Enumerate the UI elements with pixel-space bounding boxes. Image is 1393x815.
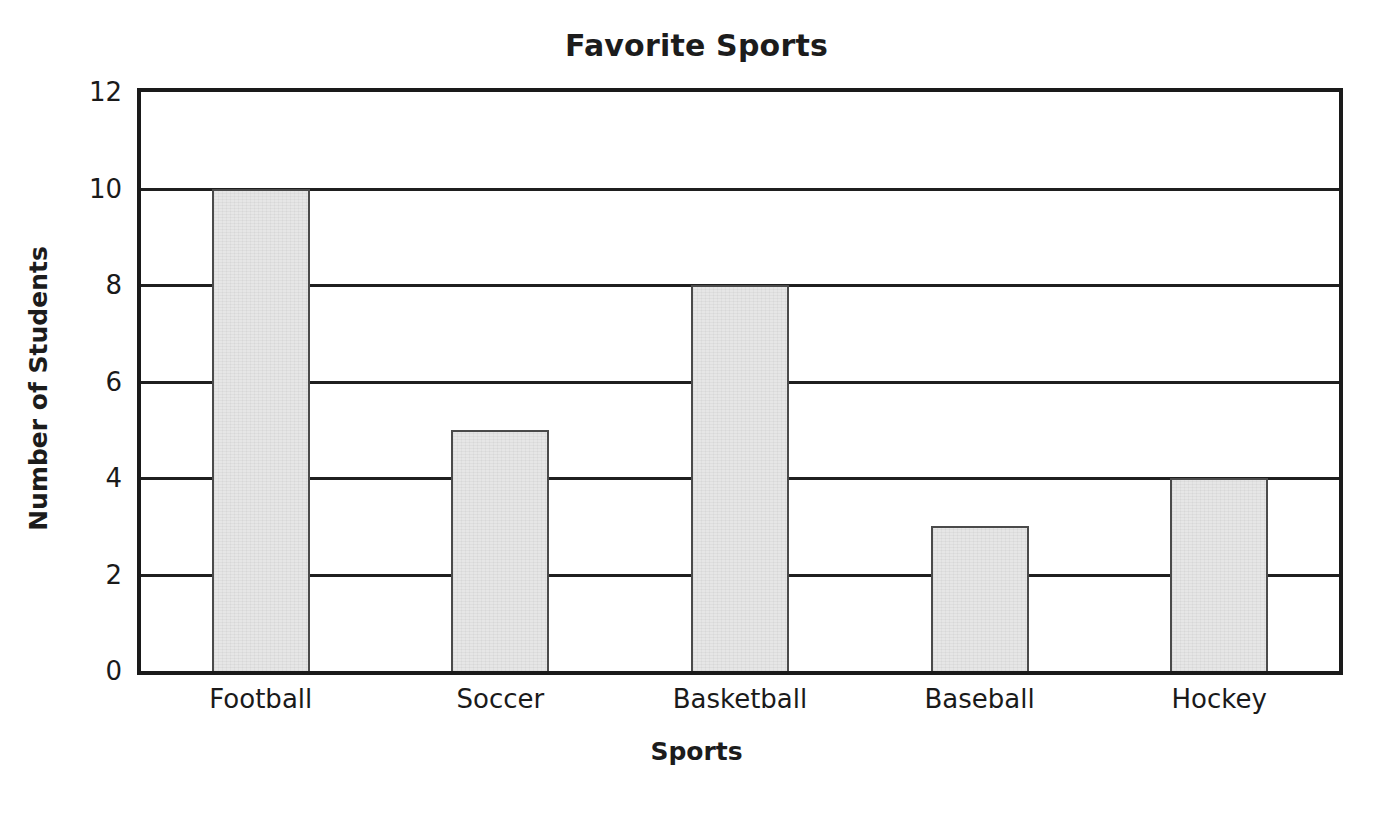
- bars-layer: [141, 92, 1339, 671]
- x-axis-title: Sports: [0, 737, 1393, 766]
- y-axis-tick-label: 0: [2, 658, 122, 684]
- y-axis-tick-labels: 121086420: [0, 88, 122, 675]
- y-axis-tick-label: 2: [2, 562, 122, 588]
- bar-chart: Favorite Sports Number of Students 12108…: [0, 0, 1393, 815]
- x-axis-tick-label: Football: [209, 686, 312, 712]
- chart-title: Favorite Sports: [0, 28, 1393, 63]
- y-axis-tick-label: 8: [2, 272, 122, 298]
- x-axis-tick-labels: FootballSoccerBasketballBaseballHockey: [137, 686, 1343, 732]
- x-axis-tick-label: Baseball: [924, 686, 1034, 712]
- bar: [1170, 478, 1268, 671]
- x-axis-tick-label: Basketball: [673, 686, 808, 712]
- x-axis-tick-label: Soccer: [457, 686, 545, 712]
- x-axis-tick-label: Hockey: [1172, 686, 1267, 712]
- y-axis-tick-label: 10: [2, 176, 122, 202]
- y-axis-tick-label: 12: [2, 79, 122, 105]
- y-axis-tick-label: 6: [2, 369, 122, 395]
- bar: [691, 285, 789, 671]
- plot-area: [137, 88, 1343, 675]
- bar: [931, 526, 1029, 671]
- bar: [451, 430, 549, 671]
- y-axis-tick-label: 4: [2, 465, 122, 491]
- bar: [212, 189, 310, 672]
